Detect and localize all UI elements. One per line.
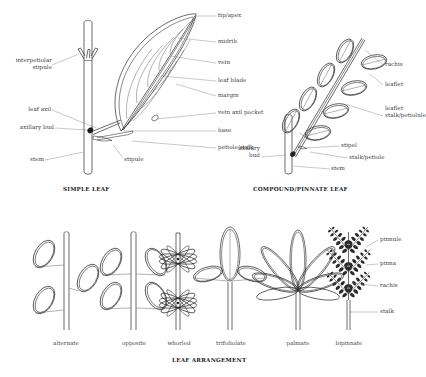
simple-leaf-drawing [45,14,216,174]
label-leaflet-stalk-petiolule: leaflet stalk/petiolule [385,105,426,119]
label-arrangement-palmate: palmate [270,340,326,346]
label-rachis-bipinnate: rachis [380,282,398,289]
label-stem-simple: stem [0,156,44,163]
label-axillary-bud-compound-line1: axillary [239,145,260,151]
label-rachis-compound: rachis [385,61,403,68]
caption-simple-leaf: SIMPLE LEAF [63,186,109,192]
label-interpetiolar-stipule-line2: stipule [32,64,52,70]
label-leaflet: leaflet [385,81,403,88]
label-stipel: stipel [341,142,357,149]
label-midrib: midrib [218,38,237,45]
compound-leaf-stem [285,115,292,175]
label-pinnule: pinnule [380,236,402,243]
label-axillary-bud: axillary bud [0,124,54,131]
label-stem-compound: stem [331,165,345,172]
label-pinna: pinna [380,260,396,267]
leaf-arrangement-drawings [29,223,378,330]
arrangement-whorled-shape [159,233,198,330]
label-leaflet-stalk-line2: stalk/petiolule [385,112,426,118]
arrangement-trifoliolate-shape [192,227,269,330]
label-tip-apex: tip/apex [218,12,241,19]
label-stipule: stipule [124,156,144,163]
label-leaf-blade: leaf blade [218,77,246,84]
label-vein: vein [218,59,230,66]
label-margin: margin [218,92,239,99]
interpetiolar-stipule-shape [78,48,98,61]
label-vein-axil-pocket: vein axil pocket [218,109,263,116]
simple-leaf-leader-lines-right [113,16,216,158]
axillary-bud-shape [87,127,93,133]
label-leaf-axil: leaf axil [0,106,51,113]
label-interpetiolar-stipule-line1: interpetiolar [16,57,52,63]
label-arrangement-trifoliolate: trifoliolate [202,340,260,346]
leaf-diagram-page: .s { fill:none; stroke:#2b2b2b; stroke-w… [0,0,426,377]
simple-leaf-stem [84,20,92,174]
label-axillary-bud-compound-line2: bud [249,152,260,158]
arrangement-opposite-shape [96,232,172,330]
arrangement-alternate-shape [29,232,104,330]
caption-compound-leaf: COMPOUND/PINNATE LEAF [253,186,348,192]
label-interpetiolar-stipule: interpetiolar stipule [0,57,52,71]
label-stalk-bipinnate: stalk [380,308,394,315]
label-axillary-bud-compound: axillary bud [222,145,260,159]
caption-leaf-arrangement: LEAF ARRANGEMENT [172,357,246,363]
label-stalk-petiole: stalk/petiole [349,154,385,161]
label-leaflet-stalk-line1: leaflet [385,105,403,111]
petiole-stalk-shape [93,120,133,140]
label-arrangement-bipinnate: bipinnate [321,340,377,346]
leaf-blade-shape [115,14,196,131]
simple-leaf-leader-lines-left [45,54,96,160]
label-arrangement-whorled: whorled [151,340,207,346]
arrangement-bipinnate-shape [322,223,378,330]
label-base: base [218,127,231,134]
label-arrangement-alternate: alternate [38,340,94,346]
